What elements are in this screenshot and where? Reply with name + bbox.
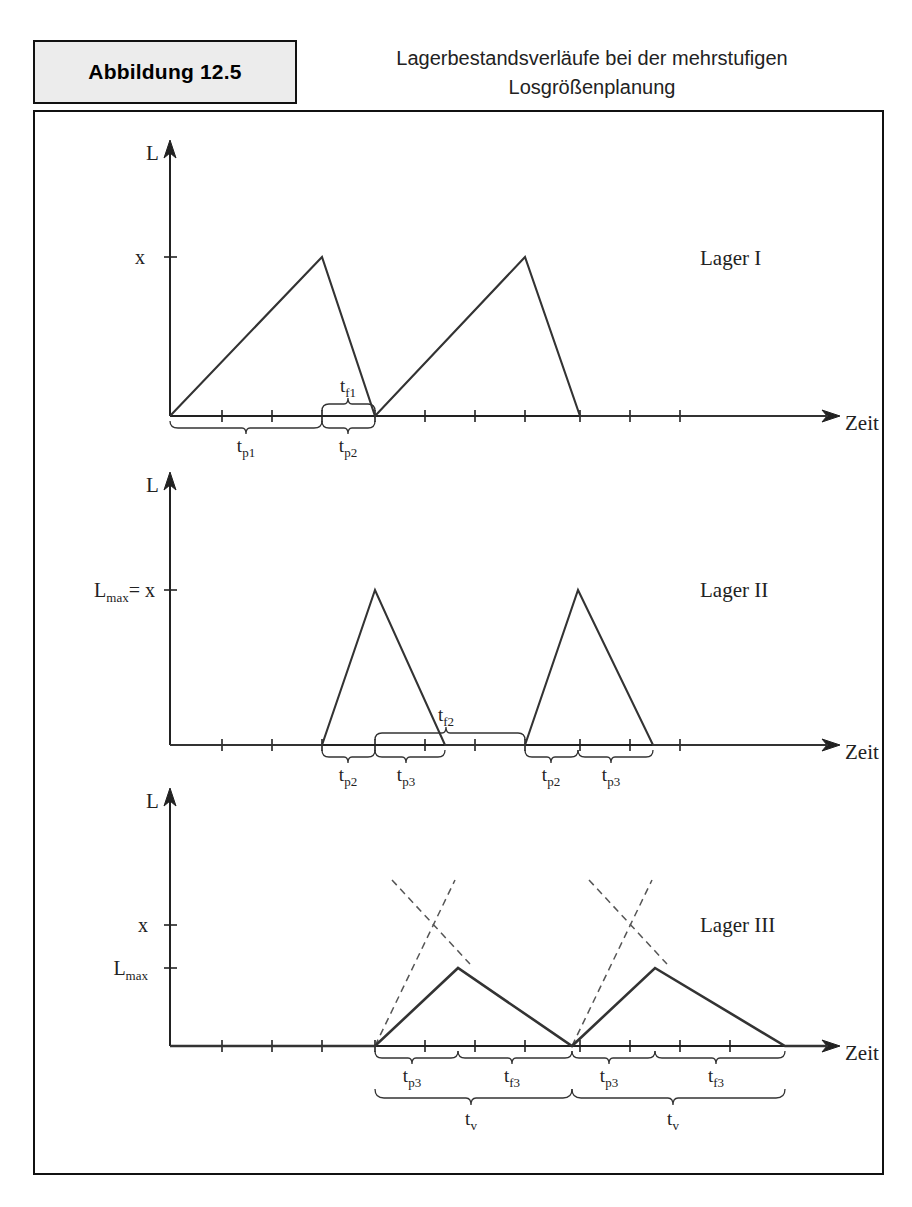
- brace-tp2-panel2: tp2: [322, 750, 375, 789]
- brace-tp3-panel2: tp3: [375, 750, 445, 789]
- brace-tf3-panel3: tf3: [458, 1051, 572, 1090]
- x-axis-label-panel3: Zeit: [845, 1041, 879, 1065]
- brace-label-tp2-panel2: tp2: [339, 764, 357, 789]
- dashed-rise-1: [375, 880, 455, 1046]
- figure-root: Abbildung 12.5 Lagerbestandsverläufe bei…: [0, 0, 912, 1207]
- panel1-title: Lager I: [700, 246, 761, 270]
- dashed-rise-2: [572, 880, 652, 1046]
- series-lager-3: [170, 968, 828, 1046]
- y-ticklabel-x-panel1: x: [135, 246, 145, 268]
- brace-label-tp1: tp1: [237, 435, 255, 460]
- brace-tp3-panel3: tp3: [375, 1051, 458, 1090]
- brace-label-tf3b-panel3: tf3: [708, 1065, 724, 1090]
- brace-label-tp3-panel3: tp3: [403, 1065, 421, 1090]
- charts-svg: L Zeit x: [0, 0, 912, 1207]
- brace-tp2b-panel2: tp2: [525, 750, 578, 789]
- brace-label-tf3-panel3: tf3: [504, 1065, 520, 1090]
- panel-lager-2: L Zeit Lmax= x: [94, 472, 879, 789]
- brace-tvb-panel3: tv: [572, 1089, 785, 1133]
- y-ticklabel-lmax-panel3: Lmax: [113, 957, 148, 983]
- brace-tp3b-panel3: tp3: [572, 1051, 655, 1090]
- brace-label-tvb-panel3: tv: [667, 1108, 679, 1133]
- brace-tp2-panel1: tp2: [322, 421, 375, 460]
- brace-label-tp3-panel2: tp3: [397, 764, 415, 789]
- y-ticklabel-x-panel3: x: [138, 914, 148, 936]
- series-lager-1: [170, 257, 828, 416]
- brace-tf2-panel2: tf2: [375, 704, 525, 740]
- brace-label-tf1: tf1: [340, 375, 356, 400]
- y-axis-label-panel2: L: [146, 473, 159, 497]
- brace-tv-panel3: tv: [375, 1089, 572, 1133]
- brace-tf3b-panel3: tf3: [655, 1051, 785, 1090]
- y-axis-label-panel1: L: [146, 141, 159, 165]
- brace-label-tp3b-panel2: tp3: [602, 764, 620, 789]
- brace-tp3b-panel2: tp3: [578, 750, 653, 789]
- panel3-title: Lager III: [700, 913, 775, 937]
- brace-label-tp3b-panel3: tp3: [600, 1065, 618, 1090]
- brace-label-tp2b-panel2: tp2: [542, 764, 560, 789]
- brace-tp1-panel1: tp1: [170, 421, 322, 460]
- dashed-fall-2: [589, 880, 667, 964]
- series-lager-2: [170, 590, 828, 745]
- brace-label-tf2-panel2: tf2: [438, 704, 454, 729]
- x-axis-label-panel2: Zeit: [845, 740, 879, 764]
- brace-label-tp2: tp2: [339, 435, 357, 460]
- dashed-fall-1: [392, 880, 470, 964]
- panel-lager-3: L Zeit x Lmax: [113, 788, 879, 1133]
- y-ticklabel-lmax-panel2: Lmax= x: [94, 579, 155, 605]
- brace-label-tv-panel3: tv: [465, 1108, 477, 1133]
- x-axis-label-panel1: Zeit: [845, 411, 879, 435]
- panel-lager-1: L Zeit x: [135, 140, 879, 460]
- y-axis-label-panel3: L: [146, 789, 159, 813]
- panel2-title: Lager II: [700, 578, 768, 602]
